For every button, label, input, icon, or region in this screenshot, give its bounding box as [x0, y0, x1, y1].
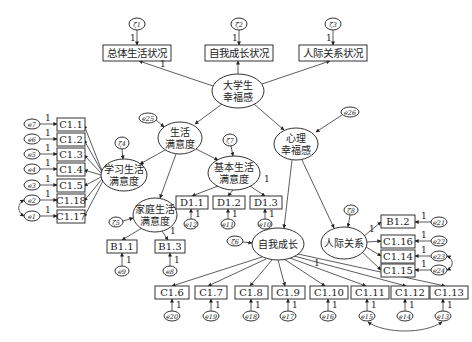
svg-text:e7: e7 — [28, 121, 37, 129]
svg-text:C1.5: C1.5 — [59, 180, 83, 191]
svg-text:D1.1: D1.1 — [180, 197, 204, 208]
svg-text:B1.1: B1.1 — [110, 241, 133, 252]
svg-text:ζ3: ζ3 — [329, 21, 337, 29]
svg-text:e13: e13 — [437, 313, 449, 321]
latent-basic-satisfaction[interactable]: 基本生活 满意度 ζ7 1 — [208, 134, 270, 190]
svg-text:人际关系状况: 人际关系状况 — [303, 47, 364, 59]
latent-psych-wellbeing[interactable]: 心理 幸福感 e26 — [274, 107, 359, 160]
svg-text:e10: e10 — [259, 221, 271, 229]
svg-text:家庭生活: 家庭生活 — [135, 203, 175, 215]
item-b1-1[interactable]: B1.1 e9 1 — [107, 240, 137, 276]
svg-text:e14: e14 — [399, 313, 411, 321]
svg-text:e3: e3 — [28, 182, 36, 190]
item-c1-8[interactable]: C1.8 e18 1 — [235, 286, 268, 321]
item-d1-2[interactable]: D1.2 e11 1 — [213, 196, 245, 229]
svg-text:C1.4: C1.4 — [59, 164, 83, 175]
item-c1-12[interactable]: C1.12 e14 1 — [391, 286, 429, 321]
item-c1-1[interactable]: C1.1 e7 1 — [24, 113, 85, 131]
svg-text:1: 1 — [314, 258, 320, 268]
svg-text:1: 1 — [332, 300, 338, 310]
svg-text:满意度: 满意度 — [140, 215, 170, 227]
svg-text:1: 1 — [421, 259, 427, 269]
svg-text:自我成长状况: 自我成长状况 — [209, 47, 270, 59]
study-loadings — [84, 125, 103, 217]
latent-self-growth[interactable]: 自我成长 ζ6 1 — [227, 228, 320, 268]
svg-text:C1.10: C1.10 — [314, 287, 344, 298]
svg-text:B1.2: B1.2 — [386, 216, 409, 227]
growth-items: C1.6 e20 1 C1.7 e19 1 C1.8 e18 1 C1.9 e1 — [155, 286, 468, 331]
family-items: B1.1 e9 1 B1.3 e8 1 — [107, 240, 185, 276]
item-c1-6[interactable]: C1.6 e20 1 — [155, 286, 189, 321]
svg-text:e2: e2 — [28, 197, 36, 205]
indicator-self-growth[interactable]: 自我成长状况 ζ2 1 — [205, 18, 273, 61]
svg-text:ζ5: ζ5 — [112, 219, 120, 227]
item-c1-9[interactable]: C1.9 e17 1 — [272, 286, 305, 321]
svg-text:总体生活状况: 总体生活状况 — [107, 47, 168, 59]
item-c1-5[interactable]: C1.5 e3 1 — [24, 174, 85, 192]
svg-text:1: 1 — [255, 300, 261, 310]
svg-text:e15: e15 — [361, 313, 373, 321]
item-b1-3[interactable]: B1.3 e8 1 — [155, 240, 185, 276]
sem-diagram: 总体生活状况 ζ1 1 自我成长状况 ζ2 1 人际关系状况 ζ3 1 1 大学… — [0, 0, 472, 342]
basic-items: D1.1 e12 1 D1.2 e11 1 D1.3 e10 1 — [176, 196, 282, 229]
svg-text:C1.14: C1.14 — [383, 251, 413, 262]
latent-family-satisfaction[interactable]: 家庭生活 满意度 ζ5 1 — [109, 198, 177, 236]
svg-text:1: 1 — [215, 300, 221, 310]
svg-text:e20: e20 — [166, 313, 178, 321]
svg-text:1: 1 — [130, 33, 136, 43]
svg-text:ζ4: ζ4 — [118, 140, 126, 148]
svg-text:1: 1 — [264, 174, 270, 184]
study-items: C1.1 e7 1 C1.2 e6 1 C1.3 e5 1 C1.4 e4 — [19, 113, 86, 223]
latent-university-wellbeing[interactable]: 大学生 幸福感 — [212, 74, 264, 108]
svg-text:ζ6: ζ6 — [231, 238, 239, 246]
svg-text:e5: e5 — [28, 151, 36, 159]
svg-text:e11: e11 — [222, 221, 234, 229]
svg-text:1: 1 — [174, 255, 180, 265]
svg-text:1: 1 — [45, 113, 51, 123]
svg-text:C1.16: C1.16 — [383, 236, 413, 247]
svg-text:ζ2: ζ2 — [235, 21, 243, 29]
svg-text:B1.3: B1.3 — [158, 241, 181, 252]
svg-text:1: 1 — [126, 255, 132, 265]
svg-text:1: 1 — [409, 300, 415, 310]
svg-text:基本生活: 基本生活 — [214, 161, 254, 173]
item-c1-10[interactable]: C1.10 e16 1 — [310, 286, 348, 321]
svg-text:1: 1 — [421, 245, 427, 255]
svg-text:1: 1 — [421, 230, 427, 240]
svg-text:C1.3: C1.3 — [59, 149, 83, 160]
svg-text:自我成长: 自我成长 — [258, 238, 298, 250]
svg-text:满意度: 满意度 — [165, 138, 195, 150]
item-d1-1[interactable]: D1.1 e12 1 — [176, 196, 208, 229]
svg-text:D1.2: D1.2 — [217, 197, 241, 208]
svg-text:满意度: 满意度 — [109, 175, 139, 187]
svg-text:e25: e25 — [142, 115, 154, 123]
item-c1-17[interactable]: C1.17 e1 1 — [24, 205, 86, 223]
svg-text:C1.17: C1.17 — [56, 211, 86, 222]
indicator-overall-life[interactable]: 总体生活状况 ζ1 1 — [103, 18, 171, 61]
latent-life-satisfaction[interactable]: 生活 满意度 e25 — [139, 113, 202, 154]
covariance-e1-e2 — [19, 200, 24, 216]
svg-text:1: 1 — [45, 189, 51, 199]
svg-text:生活: 生活 — [170, 126, 190, 138]
latent-interpersonal[interactable]: 人际关系 ζ8 1 — [321, 205, 375, 259]
covariance-e15-e13 — [368, 322, 442, 331]
svg-text:1: 1 — [176, 300, 182, 310]
item-c1-7[interactable]: C1.7 e19 1 — [195, 286, 227, 321]
item-c1-16[interactable]: C1.16 e22 1 — [381, 230, 447, 248]
item-b1-2[interactable]: B1.2 e21 1 — [381, 211, 447, 228]
svg-text:1: 1 — [195, 209, 201, 219]
svg-text:1: 1 — [170, 226, 176, 236]
latent-study-satisfaction[interactable]: 学习生活 满意度 ζ4 — [101, 137, 147, 191]
svg-text:e8: e8 — [166, 268, 174, 276]
item-c1-13[interactable]: C1.13 e13 1 — [430, 286, 468, 321]
svg-text:1: 1 — [447, 300, 453, 310]
svg-text:C1.11: C1.11 — [355, 287, 385, 298]
item-c1-11[interactable]: C1.11 e15 1 — [351, 286, 389, 321]
indicator-interpersonal[interactable]: 人际关系状况 ζ3 1 — [299, 18, 367, 61]
svg-text:1: 1 — [371, 300, 377, 310]
svg-text:C1.2: C1.2 — [59, 134, 83, 145]
svg-text:1: 1 — [369, 224, 375, 234]
svg-text:C1.12: C1.12 — [395, 287, 425, 298]
item-d1-3[interactable]: D1.3 e10 1 — [250, 196, 282, 229]
svg-text:e16: e16 — [322, 313, 334, 321]
